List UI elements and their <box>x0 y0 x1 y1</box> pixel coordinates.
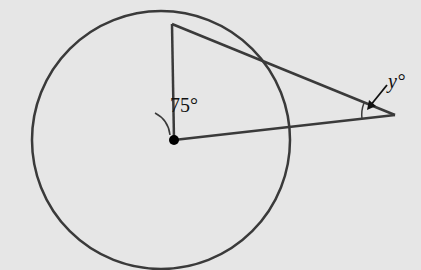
central-angle-label: 75° <box>170 94 198 116</box>
unknown-angle-label: y° <box>386 70 405 93</box>
circle <box>32 11 290 269</box>
external-angle-arc <box>362 103 364 119</box>
central-angle-arc <box>155 113 170 135</box>
center-point <box>169 135 179 145</box>
radius-line <box>172 24 174 140</box>
angle-arrow <box>370 85 387 106</box>
geometry-diagram: 75° y° <box>0 0 421 270</box>
